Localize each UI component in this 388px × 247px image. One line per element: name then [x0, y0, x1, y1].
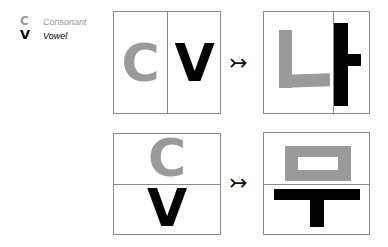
- a-horizontal-stroke: [348, 54, 361, 66]
- mieum-inner-hole: [298, 157, 338, 170]
- arrow-icon: ↣: [229, 172, 247, 194]
- legend-consonant-label: Consonant: [43, 17, 87, 27]
- legend-consonant-letter: C: [20, 15, 29, 27]
- vowel-letter: V: [114, 182, 220, 234]
- consonant-letter: C: [114, 37, 167, 89]
- output-box-mu: [263, 132, 370, 235]
- u-vertical-stroke: [310, 199, 324, 227]
- vowel-letter: V: [168, 37, 221, 89]
- nieun-horizontal-stroke: [279, 73, 330, 88]
- input-box-horizontal: C V: [113, 11, 221, 114]
- horizontal-divider: [264, 184, 369, 185]
- legend-vowel-letter: V: [20, 29, 30, 41]
- consonant-shape-mieum: [285, 146, 351, 181]
- a-vertical-stroke: [334, 23, 348, 106]
- arrow-icon: ↣: [229, 52, 247, 74]
- legend-vowel-label: Vowel: [43, 31, 67, 41]
- output-box-na: [263, 11, 370, 114]
- input-box-vertical: C V: [113, 133, 221, 235]
- consonant-letter: C: [114, 132, 220, 184]
